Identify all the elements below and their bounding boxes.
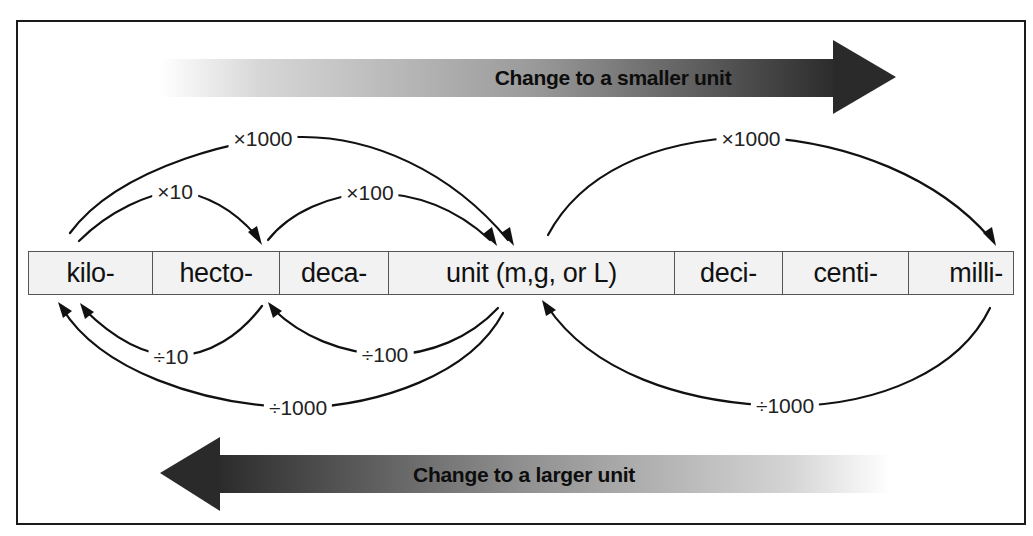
label-x10: ×10 (152, 181, 198, 203)
unit-cell-deca: deca- (280, 252, 389, 294)
label-div10: ÷10 (149, 346, 194, 368)
arc-div1000-right (547, 306, 990, 406)
arc-x1000-left (70, 137, 508, 240)
unit-cell-base: unit (m,g, or L) (389, 252, 675, 294)
smaller-unit-label: Change to a smaller unit (495, 66, 732, 90)
label-div1000-right: ÷1000 (751, 395, 819, 417)
unit-cell-hecto: hecto- (153, 252, 280, 294)
arc-div1000-left (62, 308, 503, 408)
arc-x1000-right (548, 137, 990, 238)
label-div1000-left: ÷1000 (264, 397, 332, 419)
unit-cell-deci: deci- (675, 252, 783, 294)
label-x1000-right: ×1000 (717, 128, 786, 150)
arrowhead-unit-top-2 (501, 227, 514, 246)
larger-unit-label: Change to a larger unit (413, 463, 635, 487)
unit-cell-centi: centi- (783, 252, 909, 294)
unit-strip: kilo- hecto- deca- unit (m,g, or L) deci… (28, 251, 1014, 295)
arrowhead-milli-top (983, 227, 996, 246)
label-x1000-left: ×1000 (229, 128, 298, 150)
arrowhead-kilo-bottom-1 (58, 302, 72, 318)
arrowhead-unit-bottom (542, 300, 556, 316)
label-div100: ÷100 (357, 344, 414, 366)
unit-cell-milli: milli- (909, 252, 1013, 294)
unit-cell-kilo: kilo- (29, 252, 153, 294)
label-x100: ×100 (341, 182, 398, 204)
